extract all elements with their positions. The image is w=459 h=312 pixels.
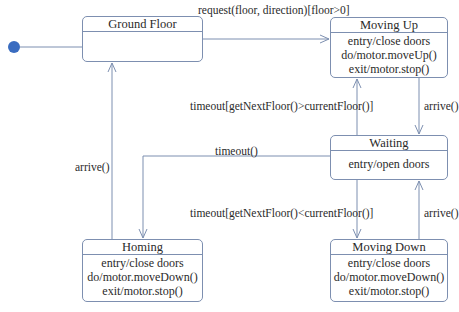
entry-action: entry/close doors [331, 34, 447, 48]
state-name: Ground Floor [83, 17, 202, 32]
label-waiting-to-moving-up: timeout[getNextFloor()>currentFloor()] [190, 100, 373, 113]
entry-action: entry/open doors [331, 157, 447, 171]
initial-state-dot [8, 41, 20, 53]
do-action: do/motor.moveDown() [331, 270, 447, 284]
exit-action: exit/motor.stop() [331, 284, 447, 298]
state-name: Homing [83, 240, 202, 255]
state-actions: entry/close doors do/motor.moveUp() exit… [331, 33, 447, 76]
state-actions: entry/close doors do/motor.moveDown() ex… [331, 255, 447, 298]
exit-action: exit/motor.stop() [331, 62, 447, 76]
label-moving-down-to-waiting: arrive() [424, 207, 458, 220]
label-ground-to-moving-up: request(floor, direction)[floor>0] [198, 4, 350, 17]
state-homing[interactable]: Homing entry/close doors do/motor.moveDo… [82, 239, 203, 302]
do-action: do/motor.moveUp() [331, 48, 447, 62]
label-waiting-to-homing: timeout() [215, 145, 258, 158]
entry-action: entry/close doors [83, 256, 202, 270]
state-actions: entry/open doors [331, 151, 447, 171]
state-actions: entry/close doors do/motor.moveDown() ex… [83, 255, 202, 298]
label-homing-to-ground: arrive() [75, 161, 109, 174]
do-action: do/motor.moveDown() [83, 270, 202, 284]
label-waiting-to-moving-down: timeout[getNextFloor()<currentFloor()] [190, 207, 373, 220]
state-name: Moving Up [331, 18, 447, 33]
state-moving-down[interactable]: Moving Down entry/close doors do/motor.m… [330, 239, 448, 302]
transition-waiting-to-homing[interactable] [143, 156, 330, 238]
label-moving-up-to-waiting: arrive() [424, 100, 458, 113]
state-name: Moving Down [331, 240, 447, 255]
state-moving-up[interactable]: Moving Up entry/close doors do/motor.mov… [330, 17, 448, 78]
state-waiting[interactable]: Waiting entry/open doors [330, 135, 448, 180]
state-name: Waiting [331, 136, 447, 151]
state-ground-floor[interactable]: Ground Floor [82, 16, 203, 62]
entry-action: entry/close doors [331, 256, 447, 270]
state-actions [83, 32, 202, 33]
exit-action: exit/motor.stop() [83, 284, 202, 298]
